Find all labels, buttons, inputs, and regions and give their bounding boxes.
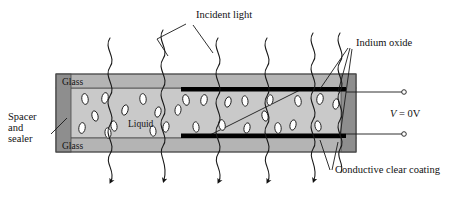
glass-layer-bottom <box>56 138 356 152</box>
label-liquid: Liquid <box>128 119 154 129</box>
figure-canvas: Incident light Indium oxide Conductive c… <box>0 0 473 197</box>
electrode-bottom-indium-oxide <box>181 134 346 139</box>
label-glass-bottom: Glass <box>62 141 83 151</box>
lcd-cell <box>56 74 356 152</box>
label-spacer-line2: and <box>8 122 24 133</box>
label-incident-light: Incident light <box>196 9 252 20</box>
label-spacer-line1: Spacer <box>8 111 37 122</box>
label-conductive-clear-coating: Conductive clear coating <box>335 164 441 175</box>
label-voltage: V = 0V <box>390 108 421 119</box>
terminal-top <box>402 90 407 95</box>
label-indium-oxide: Indium oxide <box>356 37 413 48</box>
glass-layer-top <box>56 74 356 88</box>
label-spacer-line3: sealer <box>8 133 33 144</box>
leader-incident-light-right <box>193 25 213 53</box>
voltage-value: = 0V <box>396 108 420 119</box>
label-glass-top: Glass <box>62 77 83 87</box>
lcd-cross-section-figure: Incident light Indium oxide Conductive c… <box>0 0 473 197</box>
terminal-bottom <box>402 132 407 137</box>
